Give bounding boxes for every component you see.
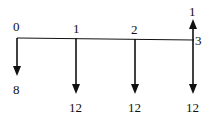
flow-amount-1: 12 xyxy=(69,100,82,115)
period-label-2: 2 xyxy=(131,22,138,37)
flow-amount-3-up: 1 xyxy=(189,4,196,19)
arrow-down-icon xyxy=(13,66,21,76)
cash-flow-arrow-period-0: 8 xyxy=(13,38,21,97)
timeline-axis xyxy=(17,38,194,40)
period-label-1: 1 xyxy=(73,21,80,36)
arrow-down-icon xyxy=(131,84,139,94)
period-label-3: 3 xyxy=(195,33,202,48)
arrow-down-icon xyxy=(72,84,80,94)
arrow-up-icon xyxy=(189,19,197,29)
flow-amount-3-down: 12 xyxy=(186,100,199,115)
flow-amount-2: 12 xyxy=(128,100,141,115)
arrow-down-icon xyxy=(189,84,197,94)
cash-flow-arrow-period-2: 12 xyxy=(128,39,141,115)
cash-flow-arrow-period-1: 12 xyxy=(69,38,82,115)
cash-flow-arrow-period-3-down: 12 xyxy=(186,40,199,115)
cash-flow-diagram: 0 1 2 3 8 12 12 1 12 xyxy=(0,0,213,118)
period-label-0: 0 xyxy=(13,19,20,34)
flow-amount-0: 8 xyxy=(13,82,20,97)
